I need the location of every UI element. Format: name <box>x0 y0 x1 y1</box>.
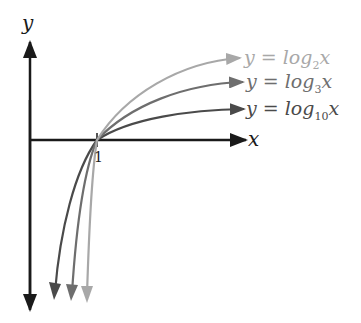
curve-log10-bottom-arrow-icon <box>49 282 61 300</box>
legend-log3: y = log3x <box>245 70 332 96</box>
log-graph-diagram: y x 1 y = log2x y = log3x y = log10x <box>0 0 361 323</box>
equation-prefix: y = log <box>245 97 314 119</box>
curve-log2-bottom-arrow-icon <box>81 286 93 303</box>
equation-var: x <box>321 70 332 92</box>
equation-base: 3 <box>314 83 321 96</box>
equation-var: x <box>319 46 330 68</box>
equation-var: x <box>328 97 339 119</box>
curve-log3-bottom-arrow-icon <box>66 284 78 301</box>
y-axis-label: y <box>21 11 34 35</box>
x-axis <box>30 133 246 147</box>
x-axis-label: x <box>248 127 259 151</box>
legend-log2: y = log2x <box>243 46 330 72</box>
svg-text:y = log10x: y = log10x <box>245 97 339 123</box>
svg-text:y = log3x: y = log3x <box>245 70 332 96</box>
equation-base: 10 <box>314 110 328 123</box>
svg-text:y = log2x: y = log2x <box>243 46 330 72</box>
equation-prefix: y = log <box>243 46 312 68</box>
tick-label-1: 1 <box>94 149 103 165</box>
equation-prefix: y = log <box>245 70 314 92</box>
curve-log2 <box>87 58 240 295</box>
curve-log10 <box>55 109 244 292</box>
legend-log10: y = log10x <box>245 97 339 123</box>
curve-log3 <box>72 82 243 293</box>
